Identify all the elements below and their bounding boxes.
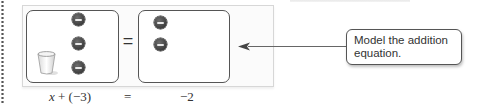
negative-counter-icon (154, 38, 167, 51)
callout-line-1: Model the addition (354, 34, 461, 47)
mat-equals-sign: = (122, 33, 134, 49)
negative-counter-icon (72, 13, 85, 26)
equation-equals: = (124, 89, 131, 105)
cup-icon (36, 50, 58, 76)
clipped-top-text (290, 0, 410, 2)
right-side-mat (138, 10, 230, 83)
negative-counter-icon (72, 61, 85, 74)
negative-counter-icon (154, 16, 167, 29)
instruction-callout: Model the addition equation. (346, 29, 462, 65)
equation-left-side: x + (−3) (49, 89, 91, 105)
callout-line-2: equation. (354, 47, 461, 60)
dotted-margin-line (1, 0, 4, 105)
equation-left-rest: + (−3) (55, 89, 91, 104)
equation-right-side: −2 (180, 89, 194, 105)
negative-counter-icon (72, 37, 85, 50)
